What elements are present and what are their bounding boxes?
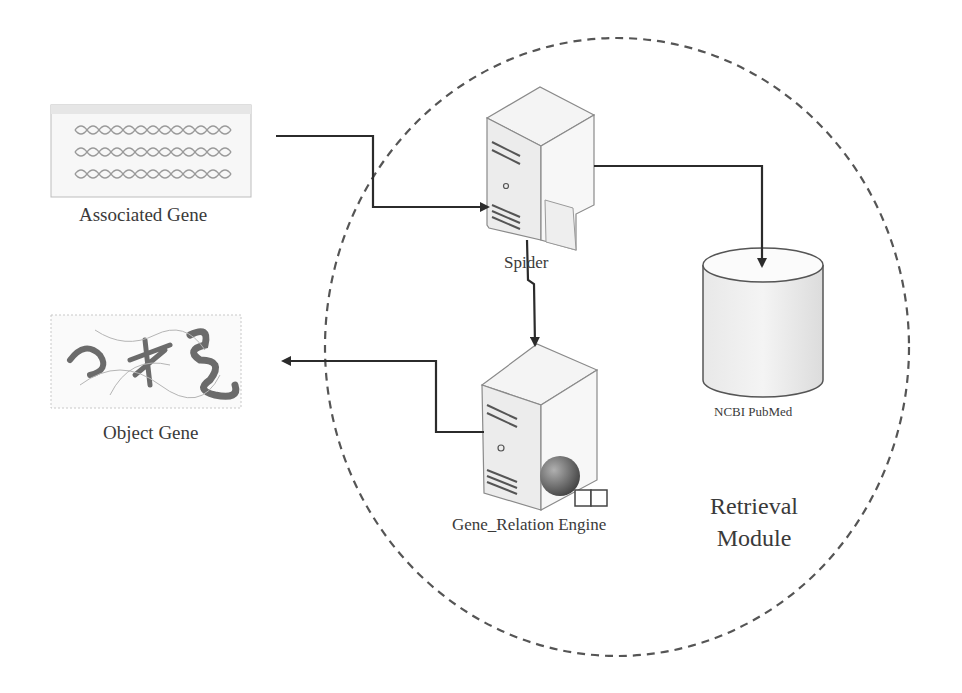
gene-relation-engine-label: Gene_Relation Engine <box>452 515 606 535</box>
ncbi-pubmed-label: NCBI PubMed <box>714 404 792 420</box>
retrieval-module-label-line1: Retrieval <box>710 490 798 522</box>
ncbi-pubmed-database-icon <box>703 248 823 397</box>
diagram-canvas <box>0 0 962 693</box>
protein-structure-image <box>51 315 241 408</box>
associated-gene-label: Associated Gene <box>79 204 207 226</box>
edge-associated-to-spider <box>276 136 488 207</box>
gene-relation-engine-server-icon <box>482 344 607 510</box>
globe-icon <box>540 456 580 496</box>
dna-sequence-image <box>51 105 251 197</box>
object-gene-label: Object Gene <box>103 422 198 444</box>
edge-engine-to-object <box>283 361 484 432</box>
spider-server-icon <box>487 87 594 250</box>
retrieval-module-label-line2: Module <box>710 522 798 554</box>
retrieval-module-label: Retrieval Module <box>710 490 798 554</box>
spider-label: Spider <box>504 253 548 273</box>
